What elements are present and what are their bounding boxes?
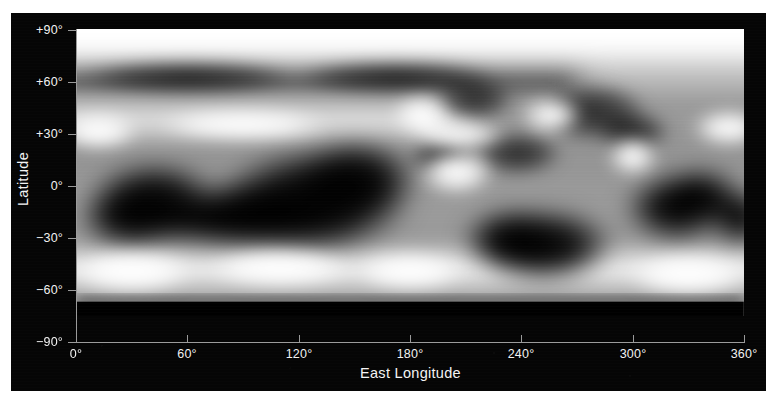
y-tick-label-60: +60°	[11, 75, 63, 89]
y-tick-30	[68, 134, 76, 135]
x-tick-360	[744, 335, 745, 342]
y-tick-label-90: +90°	[11, 23, 63, 37]
y-axis-title: Latitude	[15, 152, 31, 206]
x-tick-240	[521, 335, 522, 342]
figure-canvas: 0° 60° 120° 180° 240° 300° 360° +90° +60…	[11, 13, 766, 391]
x-tick-180	[410, 335, 411, 342]
y-tick-label-30: +30°	[11, 127, 63, 141]
y-tick-m90	[68, 342, 76, 343]
y-tick-label-m30: −30°	[11, 231, 63, 245]
x-axis-title: East Longitude	[76, 365, 745, 381]
y-axis-line	[76, 29, 77, 343]
x-tick-label-240: 240°	[508, 347, 535, 361]
y-tick-label-m90: −90°	[11, 335, 63, 349]
y-tick-90	[68, 30, 76, 31]
x-tick-0	[76, 335, 77, 342]
map-svg	[76, 29, 744, 316]
x-tick-label-120: 120°	[286, 347, 313, 361]
x-tick-label-0: 0°	[70, 347, 82, 361]
y-tick-0	[68, 186, 76, 187]
x-tick-60	[187, 335, 188, 342]
x-tick-label-300: 300°	[620, 347, 647, 361]
x-tick-label-360: 360°	[731, 347, 758, 361]
y-tick-60	[68, 82, 76, 83]
x-axis-line	[76, 342, 745, 343]
albedo-map-image	[76, 29, 744, 316]
x-tick-300	[633, 335, 634, 342]
x-tick-label-180: 180°	[397, 347, 424, 361]
figure-root: 0° 60° 120° 180° 240° 300° 360° +90° +60…	[0, 0, 773, 404]
y-tick-m30	[68, 238, 76, 239]
x-tick-label-60: 60°	[177, 347, 197, 361]
x-tick-120	[299, 335, 300, 342]
y-tick-m60	[68, 290, 76, 291]
y-tick-label-m60: −60°	[11, 283, 63, 297]
